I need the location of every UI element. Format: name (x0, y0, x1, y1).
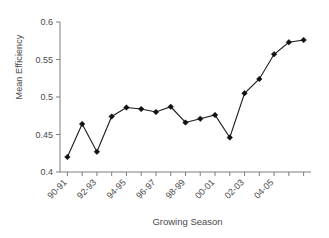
data-point-marker (301, 37, 307, 43)
x-axis-tick-label: 04-05 (252, 177, 275, 200)
x-axis-tick-label: 02-03 (223, 177, 246, 200)
y-axis-tick-label: 0.55 (35, 55, 53, 65)
data-point-marker (153, 109, 159, 115)
data-point-marker (227, 135, 233, 141)
y-axis-tick-label: 0.6 (40, 17, 53, 27)
y-axis-tick-label: 0.45 (35, 130, 53, 140)
x-axis-tick-label: 94-95 (104, 177, 127, 200)
y-axis-tick-label: 0.4 (40, 167, 53, 177)
data-point-marker (109, 114, 115, 120)
data-point-marker (65, 154, 71, 160)
data-point-marker (138, 106, 144, 112)
x-axis-tick-label: 90-91 (45, 177, 68, 200)
data-point-marker (197, 116, 203, 122)
data-point-marker (94, 149, 100, 155)
y-axis-tick-label: 0.5 (40, 92, 53, 102)
x-axis-tick-label: 96-97 (134, 177, 157, 200)
data-point-marker (212, 112, 218, 118)
data-point-marker (79, 121, 85, 127)
x-axis-label: Growing Season (0, 216, 329, 227)
x-axis-tick-label: 00-01 (193, 177, 216, 200)
x-axis-label-text: Growing Season (106, 216, 222, 227)
series-line (67, 40, 303, 157)
line-chart-plot: 0.40.450.50.550.690-9192-9394-9596-9798-… (0, 0, 329, 238)
data-point-marker (124, 105, 130, 111)
chart-container: Mean Efficiency 0.40.450.50.550.690-9192… (0, 0, 329, 238)
x-axis-tick-label: 98-99 (164, 177, 187, 200)
x-axis-tick-label: 92-93 (75, 177, 98, 200)
